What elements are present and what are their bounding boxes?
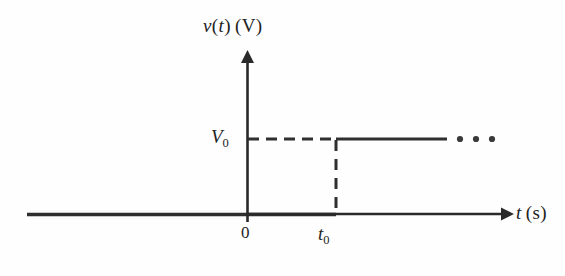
x-axis-title: t(s)	[516, 203, 547, 222]
y-tick-label-v0-subscript: 0	[223, 136, 229, 150]
x-axis-title-variable: t	[516, 202, 522, 223]
x-axis-title-unit: (s)	[526, 202, 547, 223]
y-axis-title: v(t)(V)	[203, 16, 263, 35]
y-axis-title-paren-close: )	[224, 15, 231, 36]
x-axis-arrowhead	[501, 208, 514, 221]
y-axis-title-unit: (V)	[235, 15, 263, 36]
continuation-dot-2	[473, 136, 479, 142]
step-function-figure: v(t)(V) V0 0 t0 t(s)	[0, 0, 565, 276]
continuation-dot-3	[489, 136, 495, 142]
origin-label: 0	[241, 224, 250, 241]
y-tick-label-v0: V0	[211, 127, 229, 150]
y-axis-title-variable: v	[203, 15, 212, 36]
x-tick-label-t0-subscript: 0	[323, 233, 329, 247]
y-axis-title-paren-open: (	[212, 15, 219, 36]
y-axis-arrowhead	[241, 50, 254, 63]
y-tick-label-v0-symbol: V	[211, 126, 223, 147]
x-tick-label-t0: t0	[318, 224, 330, 247]
continuation-dot-1	[457, 136, 463, 142]
plot-canvas	[0, 0, 565, 276]
